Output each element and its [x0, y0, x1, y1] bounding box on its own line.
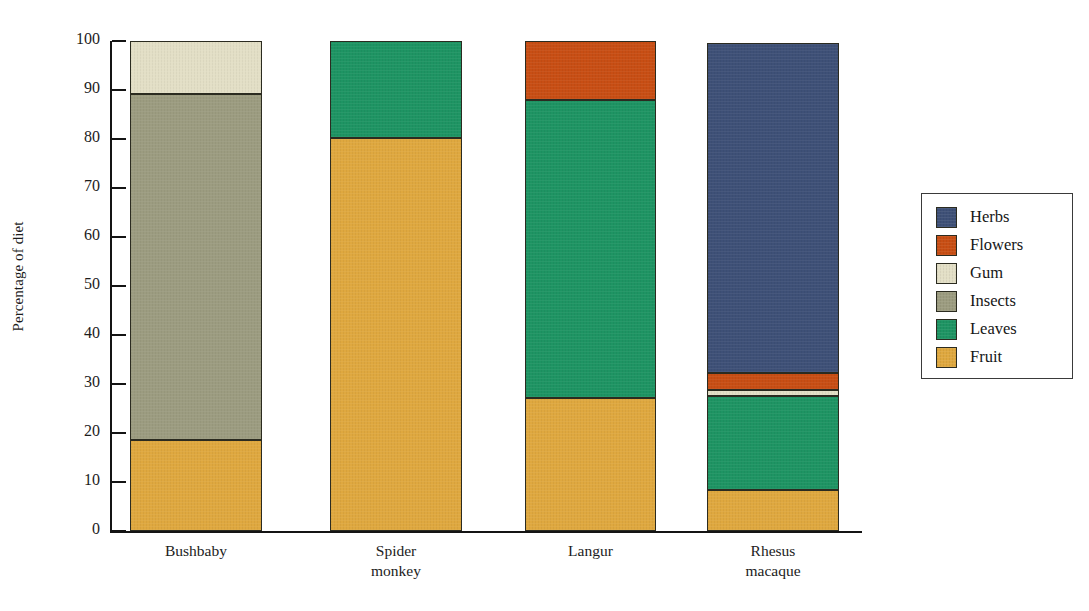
y-tick-50 [112, 285, 126, 287]
y-tick-label-10: 10 [58, 471, 100, 489]
segment-herbs-rhesus-macaque[interactable] [707, 43, 839, 372]
y-tick-label-50: 50 [58, 275, 100, 293]
y-tick-20 [112, 432, 126, 434]
category-label-rhesus-macaque: Rhesusmacaque [707, 541, 839, 582]
legend-swatch-leaves [936, 319, 957, 340]
segment-insects-bushbaby[interactable] [130, 94, 262, 440]
segment-fruit-spider-monkey[interactable] [330, 138, 462, 531]
category-label-spider-monkey: Spidermonkey [330, 541, 462, 582]
y-tick-10 [112, 481, 126, 483]
category-label-line: Langur [525, 541, 656, 561]
y-tick-30 [112, 383, 126, 385]
legend-swatch-fruit [936, 347, 957, 368]
legend-item-leaves[interactable]: Leaves [936, 315, 1072, 343]
segment-leaves-spider-monkey[interactable] [330, 41, 462, 138]
y-tick-label-60: 60 [58, 226, 100, 244]
segment-fruit-rhesus-macaque[interactable] [707, 490, 839, 531]
stacked-bar-chart: Percentage of diet 010203040506070809010… [0, 0, 1089, 611]
segment-fruit-bushbaby[interactable] [130, 440, 262, 531]
segment-leaves-langur[interactable] [525, 100, 656, 398]
y-tick-40 [112, 334, 126, 336]
y-tick-label-70: 70 [58, 177, 100, 195]
y-tick-label-20: 20 [58, 422, 100, 440]
legend: HerbsFlowersGumInsectsLeavesFruit [921, 193, 1073, 379]
segment-flowers-langur[interactable] [525, 41, 656, 100]
legend-label-gum: Gum [970, 263, 1003, 283]
category-label-line: Rhesus [707, 541, 839, 561]
y-tick-90 [112, 89, 126, 91]
y-tick-label-100: 100 [58, 30, 100, 48]
segment-gum-rhesus-macaque[interactable] [707, 390, 839, 396]
segment-gum-bushbaby[interactable] [130, 41, 262, 94]
segment-fruit-langur[interactable] [525, 398, 656, 531]
y-tick-70 [112, 187, 126, 189]
x-axis-line [110, 531, 862, 533]
legend-label-herbs: Herbs [970, 207, 1009, 227]
legend-swatch-flowers [936, 235, 957, 256]
legend-item-insects[interactable]: Insects [936, 287, 1072, 315]
y-tick-80 [112, 138, 126, 140]
category-label-langur: Langur [525, 541, 656, 561]
y-tick-60 [112, 236, 126, 238]
y-tick-label-90: 90 [58, 79, 100, 97]
category-label-line: macaque [707, 561, 839, 581]
legend-label-insects: Insects [970, 291, 1016, 311]
y-tick-label-80: 80 [58, 128, 100, 146]
segment-leaves-rhesus-macaque[interactable] [707, 396, 839, 490]
legend-swatch-herbs [936, 207, 957, 228]
legend-label-flowers: Flowers [970, 235, 1023, 255]
y-tick-100 [112, 40, 126, 42]
legend-item-gum[interactable]: Gum [936, 259, 1072, 287]
segment-flowers-rhesus-macaque[interactable] [707, 373, 839, 390]
legend-item-fruit[interactable]: Fruit [936, 343, 1072, 371]
category-label-line: Bushbaby [130, 541, 262, 561]
y-axis-title: Percentage of diet [10, 177, 27, 377]
legend-label-leaves: Leaves [970, 319, 1017, 339]
category-label-line: Spider [330, 541, 462, 561]
legend-swatch-insects [936, 291, 957, 312]
legend-item-herbs[interactable]: Herbs [936, 203, 1072, 231]
bar-langur[interactable] [525, 41, 656, 531]
legend-swatch-gum [936, 263, 957, 284]
legend-item-flowers[interactable]: Flowers [936, 231, 1072, 259]
y-tick-label-0: 0 [58, 520, 100, 538]
bar-spider-monkey[interactable] [330, 41, 462, 531]
y-tick-0 [112, 530, 126, 532]
y-tick-label-30: 30 [58, 373, 100, 391]
category-label-bushbaby: Bushbaby [130, 541, 262, 561]
y-tick-label-40: 40 [58, 324, 100, 342]
category-label-line: monkey [330, 561, 462, 581]
legend-label-fruit: Fruit [970, 347, 1002, 367]
bar-rhesus-macaque[interactable] [707, 41, 839, 531]
bar-bushbaby[interactable] [130, 41, 262, 531]
